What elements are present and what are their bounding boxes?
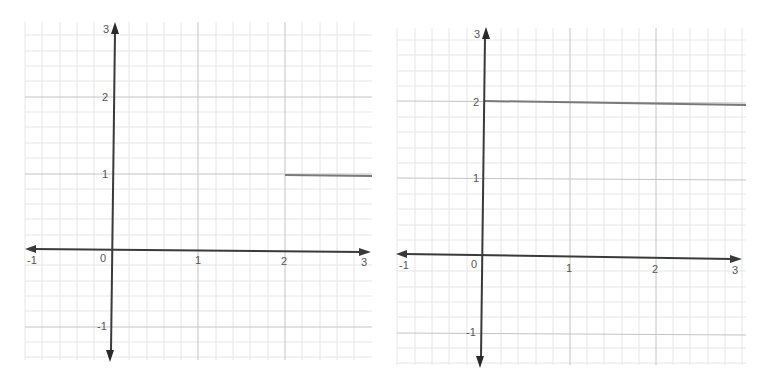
graph-left: -1 0 1 2 3 3 2 1 -1 <box>0 0 382 381</box>
y-label-2: 2 <box>102 91 108 103</box>
x-label-0: 0 <box>100 252 106 264</box>
y-label-1: 1 <box>102 168 108 180</box>
x-label-2: 2 <box>281 255 287 267</box>
x-axis-left-arrow-icon <box>25 245 36 253</box>
y-label-3: 3 <box>103 23 109 35</box>
y-axis-down-arrow-icon <box>476 356 484 368</box>
y-label-3: 3 <box>474 28 480 40</box>
y-label-m1: -1 <box>97 320 107 332</box>
y-axis-down-arrow-icon <box>106 350 114 362</box>
x-axis-left-arrow-icon <box>396 250 407 258</box>
y-axis-up-arrow-icon <box>482 27 490 39</box>
coordinate-plane-right: -1 0 1 2 3 3 2 1 -1 <box>382 0 764 381</box>
grid-minor <box>397 28 746 365</box>
x-label-m1: -1 <box>399 259 409 271</box>
x-axis-right-arrow-icon <box>730 255 742 263</box>
x-label-1: 1 <box>566 262 572 274</box>
y-label-1: 1 <box>473 172 479 184</box>
x-axis-right-arrow-icon <box>359 248 371 256</box>
y-label-m1: -1 <box>466 326 476 338</box>
x-label-2: 2 <box>652 263 658 275</box>
x-label-3: 3 <box>732 264 738 276</box>
y-axis-up-arrow-icon <box>111 22 119 34</box>
x-label-1: 1 <box>195 254 201 266</box>
graph-right: -1 0 1 2 3 3 2 1 -1 <box>382 0 764 381</box>
y-label-2: 2 <box>473 96 479 108</box>
coordinate-plane-left: -1 0 1 2 3 3 2 1 -1 <box>0 0 382 381</box>
x-label-3: 3 <box>361 256 367 268</box>
x-label-0: 0 <box>471 258 477 270</box>
function-line-y1 <box>285 175 372 176</box>
x-label-m1: -1 <box>27 254 37 266</box>
